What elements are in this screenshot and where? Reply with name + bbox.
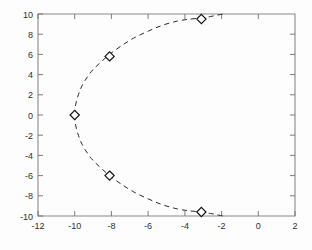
data-series-layer: [75, 14, 224, 216]
data-curve: [75, 115, 224, 216]
x-axis-tick-labels: -12 -10 -8 -6 -4 -2 0 2: [31, 221, 297, 231]
y-tick-label: 6: [28, 50, 33, 60]
x-tick-label: -8: [107, 221, 115, 231]
y-tick-label: 4: [28, 70, 33, 80]
data-point-marker: [70, 110, 79, 119]
x-tick-label: -4: [181, 221, 189, 231]
x-tick-label: -12: [31, 221, 44, 231]
figure-canvas: 10 8 6 4 2 0 -2 -4 -6 -8 -10 -12 -10 -8 …: [0, 0, 312, 250]
y-tick-label: -6: [25, 171, 33, 181]
x-tick-label: -10: [68, 221, 81, 231]
y-tick-label: -2: [25, 131, 33, 141]
data-point-marker: [197, 14, 206, 23]
data-curve: [75, 14, 224, 115]
y-tick-label: -4: [25, 151, 33, 161]
y-tick-label: 8: [28, 30, 33, 40]
data-marker-layer: [70, 14, 206, 216]
y-axis-tick-labels: 10 8 6 4 2 0 -2 -4 -6 -8 -10: [20, 10, 33, 222]
data-point-marker: [105, 52, 114, 61]
y-tick-label: -10: [20, 212, 33, 222]
data-point-marker: [197, 207, 206, 216]
chart-plot: 10 8 6 4 2 0 -2 -4 -6 -8 -10 -12 -10 -8 …: [0, 0, 312, 250]
x-tick-label: -2: [218, 221, 226, 231]
y-tick-label: 10: [23, 10, 33, 20]
y-tick-label: 0: [28, 111, 33, 121]
y-tick-label: -8: [25, 191, 33, 201]
x-tick-label: 0: [256, 221, 261, 231]
x-tick-label: -6: [144, 221, 152, 231]
y-tick-label: 2: [28, 90, 33, 100]
x-tick-label: 2: [292, 221, 297, 231]
data-point-marker: [105, 171, 114, 180]
